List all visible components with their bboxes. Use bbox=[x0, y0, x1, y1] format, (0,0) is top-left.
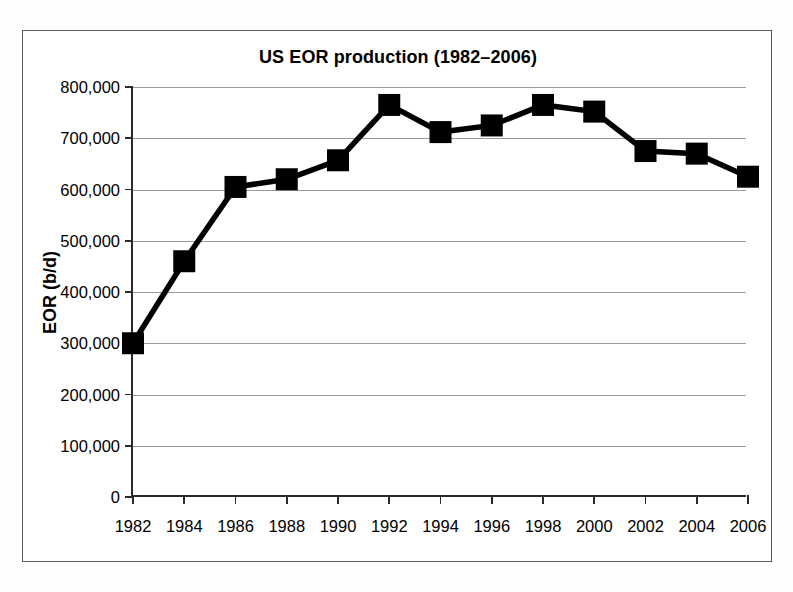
data-point-marker bbox=[173, 250, 195, 272]
data-point-marker bbox=[737, 166, 759, 188]
data-point-marker bbox=[430, 121, 452, 143]
x-axis-tick-label: 1992 bbox=[371, 517, 408, 536]
x-axis-tick-label: 1996 bbox=[473, 517, 510, 536]
x-axis-tick-label: 1998 bbox=[525, 517, 562, 536]
y-axis-title: EOR (b/d) bbox=[37, 87, 63, 497]
x-axis-tick-label: 2002 bbox=[627, 517, 664, 536]
data-point-marker bbox=[686, 143, 708, 165]
y-axis-tick-label: 200,000 bbox=[60, 385, 120, 404]
series-markers bbox=[122, 94, 759, 354]
data-point-marker bbox=[481, 114, 503, 136]
y-axis-tick bbox=[125, 394, 133, 396]
x-axis-tick-label: 1982 bbox=[115, 517, 152, 536]
y-axis-tick-label: 100,000 bbox=[60, 436, 120, 455]
y-axis-tick-label: 300,000 bbox=[60, 334, 120, 353]
y-axis-tick bbox=[125, 86, 133, 88]
y-axis-title-label: EOR (b/d) bbox=[40, 251, 61, 334]
x-axis-tick-label: 1990 bbox=[320, 517, 357, 536]
chart-title: US EOR production (1982–2006) bbox=[23, 47, 773, 68]
data-point-marker bbox=[378, 94, 400, 116]
y-axis-tick-label: 0 bbox=[111, 488, 120, 507]
data-point-marker bbox=[276, 168, 298, 190]
y-axis-tick bbox=[125, 445, 133, 447]
x-axis-tick-label: 1984 bbox=[166, 517, 203, 536]
x-axis-tick-label: 1994 bbox=[422, 517, 459, 536]
x-axis-tick-label: 1986 bbox=[217, 517, 254, 536]
y-axis-tick bbox=[125, 137, 133, 139]
x-axis-tick-label: 1988 bbox=[268, 517, 305, 536]
data-point-marker bbox=[327, 149, 349, 171]
data-point-marker bbox=[532, 94, 554, 116]
series-group bbox=[133, 87, 748, 497]
x-axis-tick-label: 2000 bbox=[576, 517, 613, 536]
chart-figure: US EOR production (1982–2006) EOR (b/d) … bbox=[0, 0, 793, 592]
x-axis-tick-label: 2004 bbox=[678, 517, 715, 536]
plot-area: 0100,000200,000300,000400,000500,000600,… bbox=[131, 87, 746, 497]
y-axis-tick-label: 600,000 bbox=[60, 180, 120, 199]
y-axis-tick bbox=[125, 291, 133, 293]
y-axis-tick-label: 700,000 bbox=[60, 129, 120, 148]
x-axis-tick-label: 2006 bbox=[730, 517, 767, 536]
data-point-marker bbox=[122, 332, 144, 354]
y-axis-tick-label: 400,000 bbox=[60, 283, 120, 302]
y-axis-tick bbox=[125, 240, 133, 242]
data-point-marker bbox=[583, 101, 605, 123]
data-point-marker bbox=[225, 176, 247, 198]
data-point-marker bbox=[635, 140, 657, 162]
chart-outer-frame: US EOR production (1982–2006) EOR (b/d) … bbox=[22, 30, 772, 562]
y-axis-tick-label: 500,000 bbox=[60, 231, 120, 250]
y-axis-tick-label: 800,000 bbox=[60, 78, 120, 97]
y-axis-tick bbox=[125, 189, 133, 191]
